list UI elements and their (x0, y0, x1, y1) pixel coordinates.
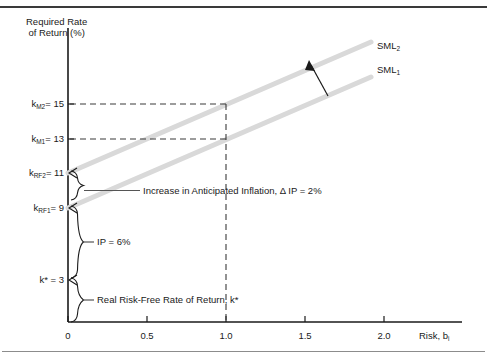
x-tick-label-0: 0 (53, 330, 83, 341)
y-tick-label-krf1: kRF1= 9 (0, 202, 64, 213)
y-tick-label-kstar: k* = 3 (0, 274, 64, 285)
y-tick-label-krf2-val: = 11 (46, 167, 64, 178)
y-axis-title: Required Rate of Return (%) (26, 16, 87, 38)
y-tick-label-km1-val: = 13 (45, 133, 64, 144)
series-label-sml1: SML1 (377, 64, 400, 75)
annotation-inflation-increase: Increase in Anticipated Inflation, Δ IP … (143, 185, 322, 196)
brace-inflation-premium (71, 206, 84, 278)
series-label-sml2-sub: 2 (397, 45, 401, 52)
sml2-line (68, 42, 371, 173)
series-label-sml2-text: SML (377, 40, 397, 51)
annotation-inflation-premium: IP = 6% (97, 236, 130, 247)
y-tick-label-km1: kM1= 13 (0, 133, 64, 144)
x-tick-label-1-0: 1.0 (211, 330, 241, 341)
y-axis-title-line2: of Return (%) (26, 27, 87, 38)
x-axis-title-text: Risk, b (419, 330, 448, 341)
x-axis-title-sub: i (448, 335, 449, 342)
y-tick-label-krf1-sym: kRF1 (33, 202, 50, 213)
chart-canvas (0, 0, 487, 364)
y-tick-label-krf1-val: = 9 (51, 202, 64, 213)
series-label-sml1-sub: 1 (397, 69, 401, 76)
y-tick-label-kstar-val: = 3 (51, 274, 64, 285)
y-tick-label-km1-sym: kM1 (31, 133, 45, 144)
y-tick-label-kstar-sym: k* (39, 274, 47, 285)
y-tick-label-km2-val: = 15 (45, 98, 64, 109)
annotation-real-risk-free: Real Risk-Free Rate of Return, k* (97, 294, 239, 305)
y-axis-title-line1: Required Rate (26, 16, 87, 27)
x-axis-title: Risk, bi (419, 330, 450, 341)
x-tick-label-1-5: 1.5 (290, 330, 320, 341)
y-tick-label-km2: kM2= 15 (0, 98, 64, 109)
brace-real-risk-free (71, 278, 84, 322)
sml-chart-figure: Required Rate of Return (%) kM2= 15 kM1=… (0, 0, 487, 364)
series-label-sml2: SML2 (377, 40, 400, 51)
x-tick-label-2-0: 2.0 (369, 330, 399, 341)
y-tick-label-krf2-sym: kRF2 (29, 167, 46, 178)
series-label-sml1-text: SML (377, 64, 397, 75)
x-tick-label-0-5: 0.5 (132, 330, 162, 341)
y-tick-label-krf2: kRF2= 11 (0, 167, 64, 178)
y-tick-label-km2-sym: kM2 (31, 98, 45, 109)
